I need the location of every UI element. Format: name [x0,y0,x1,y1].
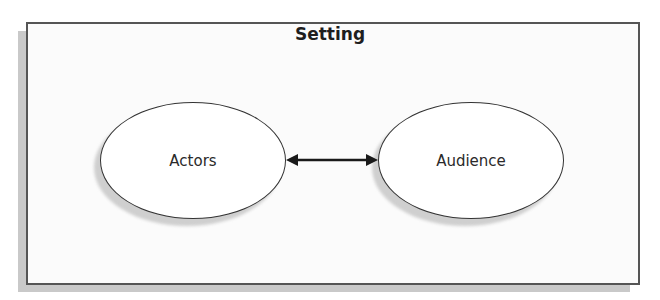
bidirectional-arrow-icon [0,0,660,300]
